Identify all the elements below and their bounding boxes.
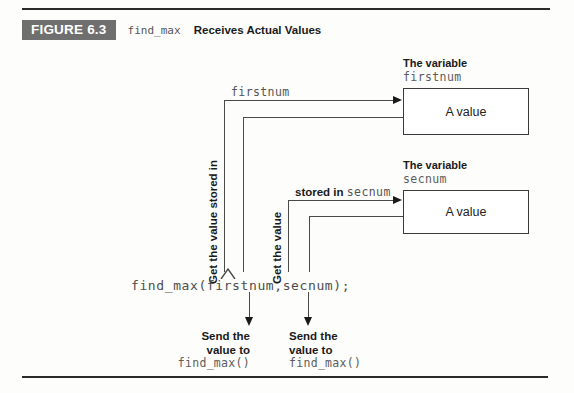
connector-secnum-return-vertical <box>309 216 310 272</box>
send-label-right-line2: value to <box>289 344 384 358</box>
arrowhead-into-secnum-box <box>393 196 402 204</box>
code-call-statement: find_max(firstnum,secnum); <box>131 278 350 293</box>
figure-caption: FIGURE 6.3 find_max Receives Actual Valu… <box>22 20 321 40</box>
arrowhead-send-right <box>304 317 312 326</box>
variable-title-firstnum: The variable <box>403 57 467 70</box>
figure-caption-text: find_max Receives Actual Values <box>128 24 322 37</box>
connector-send-left-vertical <box>249 292 250 320</box>
send-label-right-line1: Send the <box>289 330 384 344</box>
label-get-value-stored-in: Get the value stored in <box>207 160 219 284</box>
send-label-left-code: find_max() <box>175 357 250 371</box>
top-divider-rule <box>22 8 550 10</box>
variable-group-secnum: The variable secnum <box>403 159 467 186</box>
figure-page: FIGURE 6.3 find_max Receives Actual Valu… <box>0 0 574 393</box>
send-label-left: Send the value to find_max() <box>175 330 250 371</box>
connector-firstnum-return-vertical <box>243 117 244 272</box>
value-box-secnum: A value <box>403 190 529 234</box>
figure-caption-label: Receives Actual Values <box>194 24 321 36</box>
value-box-firstnum-text: A value <box>445 105 486 119</box>
value-box-firstnum: A value <box>403 88 529 135</box>
label-firstnum-arrow: firstnum <box>231 85 290 99</box>
connector-secnum-vertical <box>288 200 289 272</box>
send-label-left-line1: Send the <box>175 330 250 344</box>
connector-firstnum-vertical <box>224 100 225 272</box>
connector-send-right-vertical <box>308 292 309 320</box>
label-secnum-arrow: stored in secnum <box>295 185 391 199</box>
arrowhead-into-firstnum-box <box>393 96 402 104</box>
connector-secnum-horizontal <box>288 200 394 201</box>
send-label-left-line2: value to <box>175 344 250 358</box>
bottom-divider-rule <box>22 376 548 378</box>
label-secnum-arrow-text: stored in <box>295 186 347 198</box>
connector-secnum-return-horizontal <box>309 216 403 217</box>
label-get-the-value: Get the value <box>271 212 283 284</box>
connector-firstnum-return-horizontal <box>243 117 403 118</box>
variable-name-secnum: secnum <box>403 172 467 186</box>
connector-firstnum-horizontal <box>224 100 394 101</box>
figure-caption-code: find_max <box>128 24 194 37</box>
send-label-right-code: find_max() <box>289 357 384 371</box>
figure-number-badge: FIGURE 6.3 <box>22 20 116 40</box>
label-firstnum-arrow-text: firstnum <box>231 85 290 99</box>
value-box-secnum-text: A value <box>445 205 486 219</box>
arrowhead-send-left <box>245 317 253 326</box>
variable-name-firstnum: firstnum <box>403 70 467 84</box>
send-label-right: Send the value to find_max() <box>289 330 384 371</box>
label-secnum-arrow-code: secnum <box>347 185 391 199</box>
variable-title-secnum: The variable <box>403 159 467 172</box>
variable-group-firstnum: The variable firstnum <box>403 57 467 84</box>
